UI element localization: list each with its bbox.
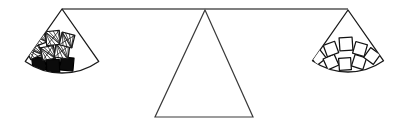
block-white [339,37,353,51]
block-hatched [45,30,60,45]
block-face [339,58,352,71]
hatch-line [31,34,35,46]
right-pan [310,10,384,72]
block-hatched [40,45,55,60]
block-face [339,37,353,51]
block-hatched [59,32,75,48]
block-face [46,59,59,72]
block-face [353,42,368,57]
block-white [339,58,352,71]
balance-scale-diagram [0,0,408,124]
block-black [46,59,59,72]
scale-svg-canvas [0,0,408,124]
fulcrum-triangle [155,10,253,117]
block-white [353,42,368,57]
left-pan [25,9,98,73]
